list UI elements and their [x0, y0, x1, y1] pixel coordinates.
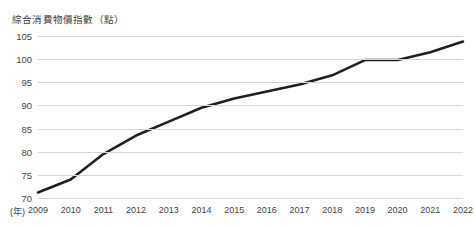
x-tick-label: 2022 [453, 205, 473, 215]
x-tick-label: 2014 [191, 205, 211, 215]
gridline [38, 198, 463, 199]
y-tick-label: 85 [4, 123, 32, 134]
x-tick-label: 2016 [257, 205, 277, 215]
x-tick-label: 2010 [61, 205, 81, 215]
y-tick-label: 75 [4, 169, 32, 180]
x-tick-label: 2018 [322, 205, 342, 215]
gridline [38, 105, 463, 106]
gridline [38, 82, 463, 83]
x-tick-label: 2009 [28, 205, 48, 215]
y-tick-label: 100 [4, 54, 32, 65]
gridline [38, 175, 463, 176]
chart-container: 綜合消費物價指數（點） (年) 707580859095100105200920… [0, 0, 476, 227]
y-tick-label: 80 [4, 146, 32, 157]
x-tick-label: 2012 [126, 205, 146, 215]
x-tick-label: 2013 [159, 205, 179, 215]
line-series [38, 36, 463, 198]
y-tick-label: 70 [4, 193, 32, 204]
y-axis-title: 綜合消費物價指數（點） [12, 12, 124, 26]
gridline [38, 129, 463, 130]
x-tick-label: 2017 [290, 205, 310, 215]
gridline [38, 36, 463, 37]
y-tick-label: 90 [4, 100, 32, 111]
plot-area [38, 36, 463, 198]
y-tick-label: 95 [4, 77, 32, 88]
gridline [38, 152, 463, 153]
x-tick-label: 2021 [420, 205, 440, 215]
series-line [38, 42, 463, 193]
x-tick-label: 2015 [224, 205, 244, 215]
gridline [38, 59, 463, 60]
x-axis-unit-label: (年) [10, 205, 25, 218]
x-tick-label: 2020 [388, 205, 408, 215]
y-tick-label: 105 [4, 31, 32, 42]
x-tick-label: 2011 [94, 205, 113, 215]
x-tick-label: 2019 [355, 205, 375, 215]
